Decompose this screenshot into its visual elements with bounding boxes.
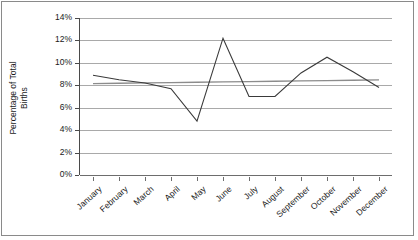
x-axis-tick <box>171 177 172 181</box>
line-series-group <box>80 18 392 175</box>
y-axis-tick-label: 12% <box>32 35 72 44</box>
plot-area <box>80 18 392 175</box>
x-axis-tick <box>327 177 328 181</box>
y-axis-tick-label: 6% <box>32 103 72 112</box>
y-axis-tick <box>75 63 79 64</box>
y-axis-tick-label: 10% <box>32 58 72 67</box>
x-axis-tick <box>223 177 224 181</box>
series-line-path <box>93 38 379 121</box>
y-axis-tick <box>75 18 79 19</box>
y-axis-tick-label: 2% <box>32 148 72 157</box>
x-axis-tick <box>145 177 146 181</box>
x-axis-tick <box>301 177 302 181</box>
x-axis-tick <box>353 177 354 181</box>
y-axis-tick-label: 0% <box>32 170 72 179</box>
y-axis-tick <box>75 85 79 86</box>
y-axis-title-line-1: Percentage of Total <box>8 61 18 134</box>
x-axis-tick <box>197 177 198 181</box>
gridline <box>80 175 392 176</box>
y-axis-line <box>79 18 80 175</box>
y-axis-title-line-2: Births <box>19 87 29 109</box>
x-axis-tick <box>119 177 120 181</box>
y-axis-tick <box>75 108 79 109</box>
x-axis-labels: JanuaryFebruaryMarchAprilMayJuneJulyAugu… <box>80 177 392 237</box>
y-axis-tick <box>75 153 79 154</box>
y-axis-tick-label: 4% <box>32 125 72 134</box>
y-axis-title: Percentage of Total Births <box>8 38 30 158</box>
y-axis-tick <box>75 130 79 131</box>
x-axis-tick <box>93 177 94 181</box>
x-axis-tick <box>249 177 250 181</box>
y-axis-tick-label: 14% <box>32 13 72 22</box>
x-axis-tick <box>379 177 380 181</box>
chart-frame: Percentage of Total Births 14%12%10%8%6%… <box>1 1 414 236</box>
y-axis-tick <box>75 40 79 41</box>
x-axis-tick <box>275 177 276 181</box>
y-axis-tick-label: 8% <box>32 80 72 89</box>
y-axis-tick <box>75 175 79 176</box>
